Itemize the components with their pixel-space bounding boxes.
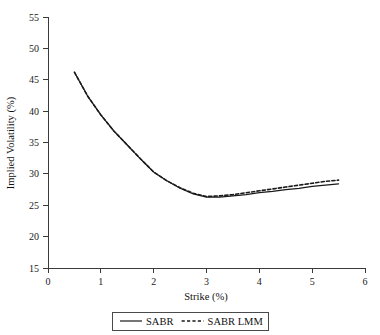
y-tick-label: 35 [29,137,39,148]
y-tick-label: 50 [29,43,39,54]
x-axis-group: 0123456 [46,268,368,287]
x-tick-label: 4 [257,276,262,287]
x-tick-label: 3 [204,276,209,287]
chart-canvas: 152025303540455055 0123456 Strike (%) Im… [0,0,380,335]
x-tick-label: 1 [98,276,103,287]
y-tick-label: 30 [29,168,39,179]
x-tick-label: 2 [151,276,156,287]
x-tick-label: 6 [363,276,368,287]
y-axis-title: Implied Volatility (%) [5,96,17,189]
y-tick-label: 20 [29,231,39,242]
x-tick-label: 5 [310,276,315,287]
x-axis-ticks: 0123456 [46,268,368,287]
legend-label-sabr-lmm: SABR LMM [208,316,264,327]
implied-volatility-smile-chart: 152025303540455055 0123456 Strike (%) Im… [0,0,380,335]
series-path-sabr-lmm [74,72,338,196]
chart-legend: SABRSABR LMM [112,312,268,330]
x-axis-title: Strike (%) [184,291,228,303]
y-tick-label: 40 [29,106,39,117]
y-tick-label: 25 [29,200,39,211]
y-tick-label: 55 [29,12,39,23]
y-axis-group: 152025303540455055 [29,12,48,274]
legend-label-sabr: SABR [146,316,173,327]
data-series-group [74,72,338,197]
y-tick-label: 15 [29,263,39,274]
series-path-sabr [74,72,338,197]
x-tick-label: 0 [46,276,51,287]
y-tick-label: 45 [29,74,39,85]
y-axis-ticks: 152025303540455055 [29,12,48,274]
